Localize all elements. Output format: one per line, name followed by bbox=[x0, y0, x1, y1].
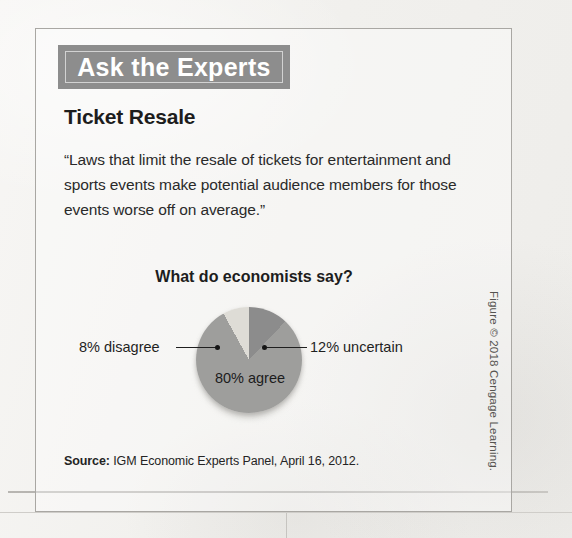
leader-dot-disagree bbox=[215, 345, 220, 350]
pie-label-disagree: 8% disagree bbox=[79, 339, 160, 355]
pie-label-uncertain: 12% uncertain bbox=[310, 339, 403, 355]
leader-line-uncertain bbox=[267, 347, 307, 348]
page-column-rule-vertical bbox=[286, 513, 287, 538]
article-title: Ticket Resale bbox=[64, 105, 195, 129]
source-label: Source: bbox=[64, 454, 110, 468]
pie-slices bbox=[196, 307, 302, 413]
ask-the-experts-banner: Ask the Experts bbox=[58, 45, 290, 89]
source-text: IGM Economic Experts Panel, April 16, 20… bbox=[110, 454, 359, 468]
expert-quote: “Laws that limit the resale of tickets f… bbox=[64, 147, 470, 222]
pie-chart: 8% disagree 12% uncertain 80% agree bbox=[36, 294, 513, 474]
figure-credit: Figure © 2018 Cengage Learning. bbox=[488, 291, 500, 471]
chart-title: What do economists say? bbox=[64, 268, 444, 286]
pie-label-agree: 80% agree bbox=[202, 370, 298, 386]
banner-title: Ask the Experts bbox=[77, 55, 270, 80]
leader-line-disagree bbox=[176, 347, 216, 348]
source-line: Source: IGM Economic Experts Panel, Apri… bbox=[64, 454, 359, 468]
figure-box: Ask the Experts Ticket Resale “Laws that… bbox=[35, 28, 512, 512]
